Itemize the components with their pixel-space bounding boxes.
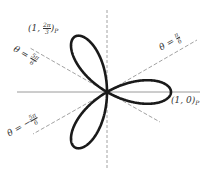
label-top-point: (1, 2π3)P — [28, 22, 58, 35]
label-right-point: (1, 0)P — [171, 96, 199, 106]
